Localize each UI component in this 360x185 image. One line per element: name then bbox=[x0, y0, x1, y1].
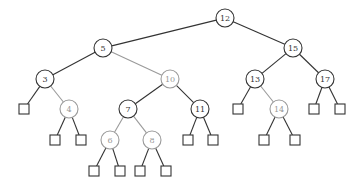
tree-edge bbox=[112, 20, 217, 46]
node-label: 6 bbox=[107, 136, 112, 145]
tree-edge bbox=[156, 148, 164, 166]
tree-edge bbox=[115, 117, 124, 132]
tree-node-3: 3 bbox=[36, 70, 54, 88]
tree-edge bbox=[134, 116, 147, 133]
tree-edge bbox=[261, 86, 274, 102]
null-leaf bbox=[50, 135, 60, 145]
tree-node-5: 5 bbox=[94, 39, 112, 57]
tree-edge bbox=[113, 149, 119, 166]
tree-node-13: 13 bbox=[246, 70, 264, 88]
node-label: 3 bbox=[42, 75, 47, 84]
tree-node-4: 4 bbox=[60, 100, 78, 118]
null-leaf bbox=[183, 135, 193, 145]
tree-edge bbox=[266, 117, 275, 135]
tree-node-12: 12 bbox=[216, 9, 234, 27]
tree-edge bbox=[299, 54, 318, 72]
tree-node-17: 17 bbox=[316, 70, 334, 88]
tree-node-14: 14 bbox=[270, 100, 288, 118]
null-leaf bbox=[115, 166, 125, 176]
node-label: 17 bbox=[320, 75, 330, 84]
tree-edge bbox=[233, 22, 285, 45]
node-label: 5 bbox=[100, 44, 105, 53]
tree-edge bbox=[51, 86, 64, 102]
tree-node-10: 10 bbox=[161, 70, 179, 88]
node-label: 14 bbox=[274, 105, 284, 114]
binary-tree-diagram: 12515310131747111468 bbox=[0, 0, 360, 185]
tree-edge bbox=[53, 52, 95, 75]
tree-edge bbox=[176, 85, 193, 102]
tree-edge bbox=[190, 117, 197, 135]
tree-edge bbox=[135, 84, 162, 104]
null-leaf bbox=[161, 166, 171, 176]
node-label: 12 bbox=[220, 14, 230, 23]
tree-node-15: 15 bbox=[284, 39, 302, 57]
tree-node-6: 6 bbox=[101, 131, 119, 149]
null-leaf bbox=[76, 135, 86, 145]
null-leaf bbox=[309, 104, 319, 114]
tree-edge bbox=[28, 86, 40, 104]
node-label: 15 bbox=[288, 44, 298, 53]
tree-node-11: 11 bbox=[191, 100, 209, 118]
node-label: 8 bbox=[149, 136, 154, 145]
node-label: 13 bbox=[250, 75, 260, 84]
null-leaf bbox=[290, 135, 300, 145]
tree-edge bbox=[57, 117, 65, 135]
tree-edge bbox=[283, 117, 292, 135]
tree-node-7: 7 bbox=[119, 100, 137, 118]
tree-edge bbox=[72, 117, 79, 135]
tree-edge bbox=[203, 117, 210, 135]
tree-edge bbox=[142, 148, 149, 166]
tree-edge bbox=[111, 52, 162, 75]
null-leaf bbox=[259, 135, 269, 145]
tree-edge bbox=[262, 54, 286, 74]
null-leaf bbox=[19, 104, 29, 114]
tree-edge bbox=[241, 87, 251, 104]
null-leaf bbox=[233, 104, 243, 114]
null-leaf bbox=[135, 166, 145, 176]
tree-node-8: 8 bbox=[143, 131, 161, 149]
null-leaf bbox=[208, 135, 218, 145]
tree-edge bbox=[329, 87, 337, 104]
node-label: 4 bbox=[66, 105, 71, 114]
null-leaf bbox=[89, 166, 99, 176]
null-leaf bbox=[335, 104, 345, 114]
tree-edge bbox=[97, 148, 106, 166]
node-label: 7 bbox=[125, 105, 130, 114]
node-label: 11 bbox=[195, 105, 205, 114]
node-label: 10 bbox=[165, 75, 175, 84]
tree-edge bbox=[316, 87, 322, 104]
